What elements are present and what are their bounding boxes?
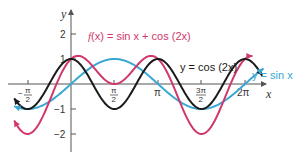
x-tick-3pi-over-2-den: 2	[199, 95, 204, 104]
label-sin: y = sin x	[252, 69, 293, 81]
y-tick-2: 2	[60, 29, 66, 40]
function-graph: x y 2 1 −1 −2 − π 2 π 2 π 3π 2 2π	[0, 0, 306, 158]
label-f: f(x) = sin x + cos (2x)	[88, 30, 191, 42]
x-tick-pi: π	[154, 87, 161, 98]
x-tick-neg-pi-over-2-num: π	[25, 86, 31, 95]
x-tick-pi-over-2-num: π	[111, 86, 117, 95]
x-tick-pi-over-2-den: 2	[112, 95, 117, 104]
y-tick-neg2: −2	[54, 129, 66, 140]
x-axis-label: x	[265, 87, 272, 101]
x-tick-neg-pi-over-2-den: 2	[26, 95, 31, 104]
x-tick-neg-pi-over-2-sign: −	[18, 89, 23, 98]
label-cos: y = cos (2x)	[180, 61, 237, 73]
x-tick-3pi-over-2-num: 3π	[196, 86, 206, 95]
y-axis-label: y	[60, 7, 67, 21]
y-tick-neg1: −1	[54, 104, 66, 115]
